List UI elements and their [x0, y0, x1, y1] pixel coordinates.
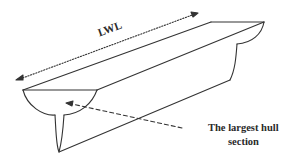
- aft-keel: [230, 44, 237, 80]
- deck-edge-starboard: [97, 22, 264, 90]
- keel-fin: [55, 115, 64, 152]
- deck-edge-port: [23, 22, 211, 90]
- keel-bottom-line: [59, 80, 230, 152]
- aft-section-curve: [237, 22, 264, 44]
- section-curve-left: [23, 90, 55, 115]
- hull-diagram: LWL The largest hull section: [0, 0, 284, 162]
- section-pointer-arrow: [66, 101, 182, 128]
- section-caption-line1: The largest hull: [208, 122, 279, 133]
- section-caption-line2: section: [228, 136, 259, 147]
